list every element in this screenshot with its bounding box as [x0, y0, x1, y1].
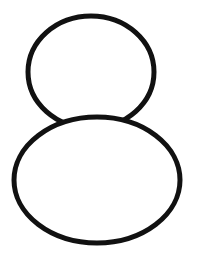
snowman-outline-drawing	[0, 0, 199, 262]
upper-circle-outline	[28, 16, 154, 128]
lower-ellipse-outline	[14, 117, 180, 243]
drawing-canvas	[0, 0, 199, 262]
